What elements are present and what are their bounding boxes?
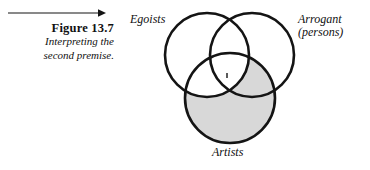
right-arrow-rule-icon: [0, 6, 122, 20]
venn-label-artists: Artists: [212, 146, 243, 159]
figure-description-line-1: Interpreting the: [0, 35, 122, 49]
venn-label-arrogant: Arrogant (persons): [298, 13, 343, 39]
figure-number: Figure 13.7: [0, 21, 122, 35]
venn-label-arrogant-text: Arrogant: [298, 12, 342, 26]
figure-root: Figure 13.7 Interpreting the second prem…: [0, 0, 370, 170]
figure-description-line-2: second premise.: [0, 49, 122, 63]
figure-caption-block: Figure 13.7 Interpreting the second prem…: [0, 6, 122, 62]
venn-label-egoists: Egoists: [130, 13, 165, 26]
venn-label-artists-text: Artists: [212, 145, 243, 159]
venn-label-arrogant-subtext: (persons): [298, 26, 343, 39]
venn-label-egoists-text: Egoists: [130, 12, 165, 26]
venn-diagram: Egoists Arrogant (persons) Artists: [128, 0, 370, 170]
